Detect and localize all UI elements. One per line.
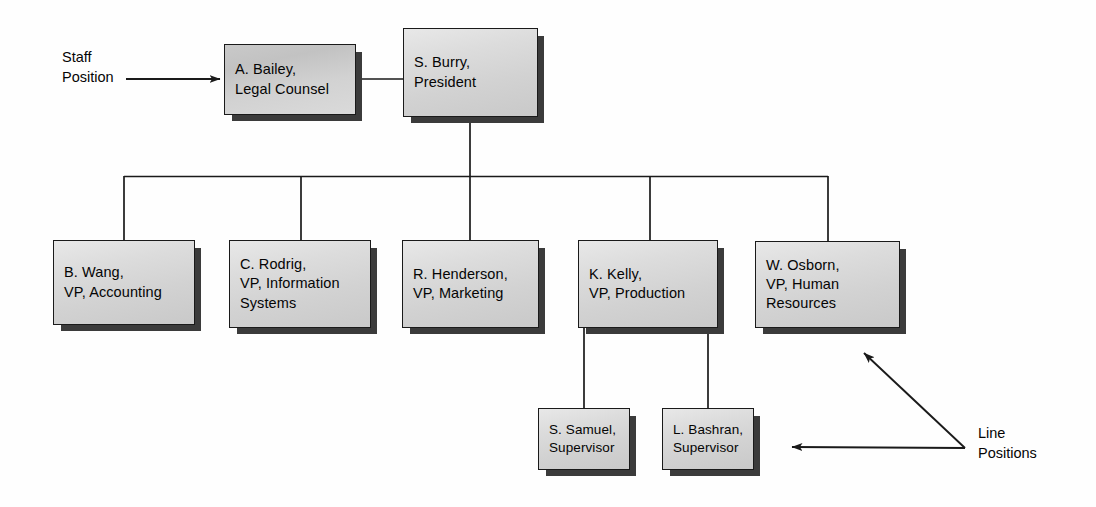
node-b-wang[interactable]: B. Wang, VP, Accounting (53, 240, 195, 325)
node-r-henderson[interactable]: R. Henderson, VP, Marketing (402, 240, 539, 328)
node-k-kelly-label: K. Kelly, VP, Production (589, 265, 685, 303)
node-c-rodrig[interactable]: C. Rodrig, VP, Information Systems (229, 240, 371, 328)
node-r-henderson-label: R. Henderson, VP, Marketing (413, 265, 508, 303)
node-l-bashran-label: L. Bashran, Supervisor (673, 421, 743, 456)
node-l-bashran[interactable]: L. Bashran, Supervisor (662, 408, 754, 470)
line-positions-arrow-upper (864, 353, 965, 448)
node-a-bailey[interactable]: A. Bailey, Legal Counsel (224, 44, 356, 115)
node-s-samuel[interactable]: S. Samuel, Supervisor (538, 408, 630, 470)
node-s-burry[interactable]: S. Burry, President (403, 28, 538, 117)
node-w-osborn[interactable]: W. Osborn, VP, Human Resources (755, 241, 900, 328)
node-a-bailey-label: A. Bailey, Legal Counsel (235, 60, 329, 98)
line-positions-arrow-lower (792, 447, 965, 448)
node-s-burry-label: S. Burry, President (414, 53, 476, 91)
annotation-line-positions: Line Positions (978, 424, 1037, 463)
annotation-staff-position: Staff Position (62, 48, 114, 87)
org-chart-canvas: A. Bailey, Legal Counsel S. Burry, Presi… (0, 0, 1096, 507)
node-w-osborn-label: W. Osborn, VP, Human Resources (766, 256, 840, 313)
node-b-wang-label: B. Wang, VP, Accounting (64, 263, 162, 301)
node-c-rodrig-label: C. Rodrig, VP, Information Systems (240, 255, 340, 312)
node-k-kelly[interactable]: K. Kelly, VP, Production (578, 240, 718, 328)
node-s-samuel-label: S. Samuel, Supervisor (549, 421, 616, 456)
